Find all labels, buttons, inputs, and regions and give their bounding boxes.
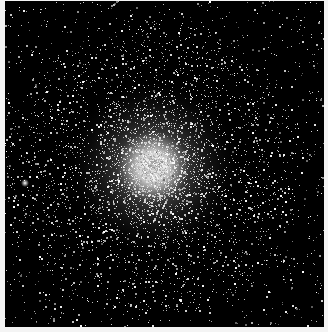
image-frame xyxy=(0,0,328,332)
star-field xyxy=(5,1,324,327)
globular-cluster-photo xyxy=(5,1,324,327)
